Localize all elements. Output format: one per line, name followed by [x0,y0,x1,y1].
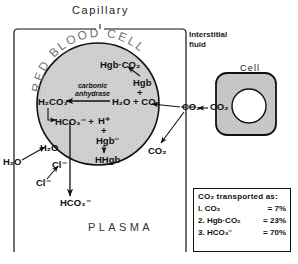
legend-row-value: = 7% [253,204,286,213]
species-h2o-plasma: H₂O [3,157,21,167]
diagram-canvas: RED BLOOD CELL Capillary Interstitial fl… [0,0,298,264]
legend-row: l. CO₂ = 7% [198,204,286,213]
species-hgb-minus: Hgb⁻ [96,136,119,146]
species-cl-plasma: Cl⁻ [36,178,51,188]
species-h2o-inside: H₂O [40,143,58,153]
legend-title: CO₂ transported as: [198,192,286,201]
species-h2co3: H₂CO₃ [38,97,68,107]
plasma-label: PLASMA [88,222,153,233]
species-co2-interstitial: CO₂ [182,102,200,112]
legend-row: 2. Hgb·CO₂ = 23% [198,216,286,225]
capillary-label: Capillary [72,5,129,16]
carbonic-anhydrase-label: carbonic anhydrase [75,82,110,97]
legend-row: 3. HCO₃⁻ = 70% [198,228,286,237]
species-h2o-plus-co2: H₂O + CO₂ [112,97,160,107]
interstitial-fluid-line2: fluid [189,40,227,50]
enzyme-line1: carbonic [75,82,110,90]
species-hco3-inside: HCO₃⁻ + [55,117,94,127]
species-hhgb: HHgb [95,155,120,165]
legend-row-name: l. CO₂ [198,204,253,213]
enzyme-line2: anhydrase [75,90,110,98]
species-cl-inside: Cl⁻ [52,160,67,170]
species-hco3-plasma: HCO₃⁻ [60,198,91,208]
legend-row-value: = 23% [253,216,286,225]
species-co2-cell: CO₂ [210,102,228,112]
legend-row-value: = 70% [253,228,286,237]
tissue-cell-label: Cell [240,64,260,73]
interstitial-fluid-label: Interstitial fluid [189,30,227,50]
legend-row-name: 3. HCO₃⁻ [198,228,253,237]
species-co2-plasma: CO₂ [148,146,166,156]
species-hgb-co2: Hgb·CO₂ [100,60,140,70]
interstitial-fluid-line1: Interstitial [189,30,227,40]
legend-row-name: 2. Hgb·CO₂ [198,216,253,225]
legend-box: CO₂ transported as: l. CO₂ = 7% 2. Hgb·C… [193,188,291,252]
